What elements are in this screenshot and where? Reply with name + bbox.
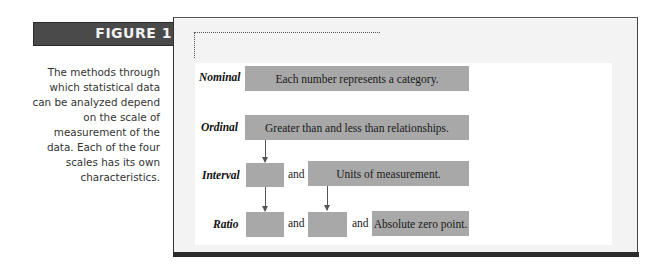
ratio-zero-box: Absolute zero point. [372, 211, 469, 236]
arrow-down-icon [327, 186, 328, 210]
caption-line: characteristics. [30, 170, 160, 185]
nominal-box: Each number represents a category. [245, 66, 469, 91]
row-label-interval: Interval [202, 169, 240, 181]
caption-line: scales has its own [30, 155, 160, 170]
ratio-interval-box [308, 212, 347, 237]
interval-ordinal-box [246, 163, 284, 187]
leader-line-horizontal [194, 32, 380, 33]
caption-line: data. Each of the four [30, 140, 160, 155]
row-label-ratio: Ratio [213, 218, 239, 230]
caption-line: The methods through [30, 65, 160, 80]
figure-caption: The methods through which statistical da… [30, 65, 160, 185]
interval-units-box: Units of measurement. [308, 161, 469, 186]
ratio-ordinal-box [246, 212, 284, 237]
frame-bottom-rule [173, 252, 639, 257]
and-connector: and [288, 168, 305, 180]
arrow-down-icon [265, 140, 266, 162]
ordinal-box: Greater than and less than relationships… [245, 115, 469, 140]
caption-line: measurement of the [30, 125, 160, 140]
and-connector: and [352, 217, 369, 229]
caption-line: which statistical data [30, 80, 160, 95]
row-label-ordinal: Ordinal [201, 121, 238, 133]
row-label-nominal: Nominal [199, 71, 241, 83]
caption-line: can be analyzed depend [30, 95, 160, 110]
arrow-down-icon [265, 187, 266, 211]
leader-line-vertical [194, 32, 195, 58]
and-connector: and [288, 217, 305, 229]
caption-line: on the scale of [30, 110, 160, 125]
